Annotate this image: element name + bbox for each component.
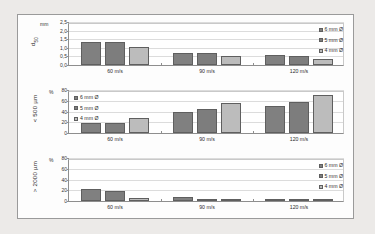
bar-group: 120 m/s <box>253 91 345 133</box>
legend-item: 4 mm Ø <box>319 48 343 53</box>
x-axis-separator <box>161 131 162 133</box>
legend-item: 5 mm Ø <box>319 174 343 179</box>
bar <box>265 55 285 65</box>
plot-area-d50: 0,00,51,01,52,02,560 m/s90 m/s120 m/s <box>68 23 344 66</box>
y-tick-label-d50: 0,5 <box>60 53 67 59</box>
chart-d50: d50 mm 0,00,51,01,52,02,560 m/s90 m/s120… <box>18 17 355 84</box>
bar <box>129 47 149 65</box>
legend-item: 5 mm Ø <box>74 106 98 111</box>
legend-swatch <box>319 185 323 189</box>
legend-swatch <box>319 174 323 178</box>
legend-item: 5 mm Ø <box>319 38 343 43</box>
legend-under-500um: 6 mm Ø5 mm Ø4 mm Ø <box>74 95 98 127</box>
legend-label: 5 mm Ø <box>80 106 98 111</box>
legend-swatch <box>319 49 323 53</box>
x-tick-label-over-2000um: 90 m/s <box>161 204 253 210</box>
legend-over-2000um: 6 mm Ø5 mm Ø4 mm Ø <box>319 163 343 195</box>
x-tick-label-under-500um: 120 m/s <box>253 136 345 142</box>
legend-label: 5 mm Ø <box>325 38 343 43</box>
y-axis-title-under-500um: < 500 µm <box>31 81 38 137</box>
bar <box>221 199 241 201</box>
chart-over-2000um: > 2000 µm % 02040608060 m/s90 m/s120 m/s… <box>18 153 355 220</box>
bar <box>81 189 101 201</box>
bar <box>265 106 285 133</box>
bar <box>197 199 217 201</box>
y-tick-label-d50: 0,0 <box>60 62 67 68</box>
legend-label: 6 mm Ø <box>80 95 98 100</box>
legend-label: 4 mm Ø <box>80 116 98 121</box>
legend-swatch <box>74 117 78 121</box>
legend-swatch <box>74 106 78 110</box>
bar <box>289 199 309 201</box>
x-axis-separator <box>161 63 162 65</box>
y-tick-mark <box>67 65 69 66</box>
y-tick-label-d50: 2,0 <box>60 28 67 34</box>
legend-item: 6 mm Ø <box>319 163 343 168</box>
bar-group: 90 m/s <box>161 159 253 201</box>
y-tick-label-d50: 1,5 <box>60 36 67 42</box>
legend-label: 6 mm Ø <box>325 27 343 32</box>
bar <box>173 53 193 65</box>
bar <box>313 95 333 133</box>
chart-under-500um: < 500 µm % 02040608060 m/s90 m/s120 m/s … <box>18 85 355 152</box>
bar <box>81 42 101 65</box>
bar-group: 90 m/s <box>161 91 253 133</box>
y-axis-title-over-2000um: > 2000 µm <box>31 149 38 205</box>
x-axis-separator <box>253 63 254 65</box>
legend-swatch <box>319 164 323 168</box>
x-axis-separator <box>161 199 162 201</box>
legend-item: 4 mm Ø <box>74 116 98 121</box>
bar <box>197 109 217 133</box>
bar <box>221 103 241 133</box>
x-tick-label-over-2000um: 120 m/s <box>253 204 345 210</box>
legend-item: 4 mm Ø <box>319 184 343 189</box>
bar <box>173 197 193 201</box>
plot-area-over-2000um: 02040608060 m/s90 m/s120 m/s <box>68 159 344 202</box>
y-tick-label-d50: 2,5 <box>60 19 67 25</box>
bar-group: 60 m/s <box>69 23 161 65</box>
bar <box>173 112 193 134</box>
y-tick-mark <box>67 201 69 202</box>
plot-area-under-500um: 02040608060 m/s90 m/s120 m/s <box>68 91 344 134</box>
legend-label: 4 mm Ø <box>325 184 343 189</box>
x-axis-separator <box>253 131 254 133</box>
bar-group: 90 m/s <box>161 23 253 65</box>
legend-item: 6 mm Ø <box>319 27 343 32</box>
x-tick-label-d50: 120 m/s <box>253 68 345 74</box>
bar <box>129 198 149 201</box>
x-tick-label-d50: 90 m/s <box>161 68 253 74</box>
bar <box>221 56 241 65</box>
x-tick-label-under-500um: 90 m/s <box>161 136 253 142</box>
legend-d50: 6 mm Ø5 mm Ø4 mm Ø <box>319 27 343 59</box>
bar <box>105 42 125 65</box>
bar <box>129 118 149 133</box>
bar <box>105 123 125 133</box>
bar <box>197 53 217 65</box>
x-tick-label-over-2000um: 60 m/s <box>69 204 161 210</box>
y-tick-mark <box>67 133 69 134</box>
legend-label: 6 mm Ø <box>325 163 343 168</box>
bar <box>313 59 333 65</box>
x-tick-label-d50: 60 m/s <box>69 68 161 74</box>
legend-swatch <box>74 96 78 100</box>
legend-label: 5 mm Ø <box>325 174 343 179</box>
y-tick-label-d50: 1,0 <box>60 45 67 51</box>
legend-item: 6 mm Ø <box>74 95 98 100</box>
x-tick-label-under-500um: 60 m/s <box>69 136 161 142</box>
y-axis-unit-d50: mm <box>40 21 48 27</box>
y-axis-unit-under-500um: % <box>49 89 53 95</box>
y-axis-unit-over-2000um: % <box>49 157 53 163</box>
legend-label: 4 mm Ø <box>325 48 343 53</box>
bar <box>313 199 333 201</box>
x-axis-separator <box>253 199 254 201</box>
bar <box>289 102 309 133</box>
legend-swatch <box>319 38 323 42</box>
bar <box>105 191 125 201</box>
legend-swatch <box>319 28 323 32</box>
bar <box>265 199 285 201</box>
bar-group: 60 m/s <box>69 159 161 201</box>
bar <box>289 56 309 65</box>
y-axis-title-d50: d50 <box>29 14 38 70</box>
figure-panel: d50 mm 0,00,51,01,52,02,560 m/s90 m/s120… <box>17 14 354 219</box>
